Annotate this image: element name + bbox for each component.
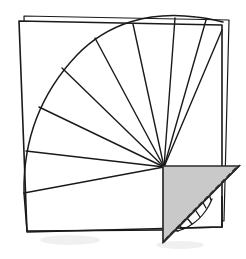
geometric-figure <box>0 0 246 259</box>
figure-container <box>0 0 246 259</box>
